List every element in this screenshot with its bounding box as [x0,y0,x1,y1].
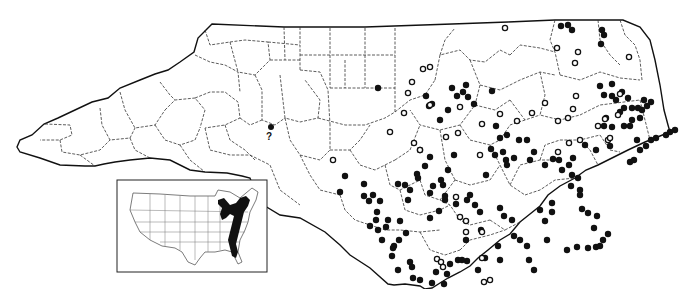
open-dot-marker [401,110,406,115]
open-dot-marker [330,157,335,162]
state-outline [17,20,670,289]
filled-dot-marker [629,117,635,123]
filled-dot-marker [607,143,613,149]
filled-dot-marker [601,123,607,129]
filled-dot-marker [495,243,501,249]
filled-dot-marker [549,209,555,215]
filled-dot-marker [601,92,607,98]
open-dot-marker [417,147,422,152]
filled-dot-marker [591,225,597,231]
filled-dot-marker [471,101,477,107]
open-dot-marker [409,79,414,84]
filled-dot-marker [631,157,637,163]
filled-dot-marker [483,172,489,178]
filled-dot-marker [488,146,494,152]
filled-dot-marker [373,217,379,223]
filled-dot-marker [559,167,565,173]
open-dot-marker [405,90,410,95]
filled-dot-marker [621,123,627,129]
filled-dot-marker [601,32,607,38]
filled-dot-marker [511,155,517,161]
filled-dot-marker [389,253,395,259]
filled-dot-marker [577,192,583,198]
filled-dot-marker [492,152,498,158]
open-dot-marker [575,49,580,54]
filled-dot-marker [472,202,478,208]
filled-dot-marker [493,123,499,129]
filled-dot-marker [497,257,503,263]
distribution-map: ? [0,0,679,289]
filled-dot-marker [454,93,460,99]
filled-dot-marker [511,233,517,239]
filled-dot-marker [549,200,555,206]
open-dot-marker [411,140,416,145]
filled-dot-marker [453,201,459,207]
filled-dot-marker [524,243,530,249]
filled-dot-marker [569,172,575,178]
filled-dot-marker [375,85,381,91]
filled-dot-marker [579,206,585,212]
open-dot-marker [555,118,560,123]
open-dot-marker [487,277,492,282]
filled-dot-marker [537,207,543,213]
filled-dot-marker [403,230,409,236]
us-inset-map [117,180,267,272]
filled-dot-marker [609,81,615,87]
open-dot-marker [477,152,482,157]
open-dot-marker [607,135,612,140]
filled-dot-marker [441,281,447,287]
open-dot-marker [602,116,607,121]
filled-dot-marker [542,162,548,168]
open-dot-marker [577,137,582,142]
open-dot-marker [453,194,458,199]
open-dot-marker [479,229,484,234]
filled-dot-marker [497,205,503,211]
filled-dot-marker [383,224,389,230]
filled-dot-marker [531,149,537,155]
filled-dot-marker [594,213,600,219]
open-dot-marker [502,25,507,30]
filled-dot-marker [437,117,443,123]
open-dot-marker [595,123,600,128]
filled-dot-marker [504,132,510,138]
open-dot-marker [555,149,560,154]
filled-dot-marker [459,257,465,263]
filled-dot-marker [463,82,469,88]
open-dot-marker [554,45,559,50]
filled-dot-marker [427,215,433,221]
filled-dot-marker [440,182,446,188]
filled-dot-marker [449,85,455,91]
filled-dot-marker [544,237,550,243]
filled-dot-marker [634,137,640,143]
filled-dot-marker [556,157,562,163]
open-dot-marker [497,111,502,116]
filled-dot-marker [558,23,564,29]
filled-dot-marker [609,124,615,130]
filled-dot-marker [489,88,495,94]
filled-dot-marker [397,218,403,224]
open-dot-marker [626,54,631,59]
filled-dot-marker [433,269,439,275]
filled-dot-marker [477,209,483,215]
filled-dot-marker [635,105,641,111]
filled-dot-marker [605,231,611,237]
filled-dot-marker [585,210,591,216]
open-dot-marker [479,255,484,260]
filled-dot-marker [565,22,571,28]
filled-dot-marker [509,217,515,223]
open-dot-marker [481,279,486,284]
filled-dot-marker [427,190,433,196]
filled-dot-marker [367,223,373,229]
filled-dot-marker [423,93,429,99]
filled-dot-marker [629,105,635,111]
filled-dot-marker [574,244,580,250]
open-dot-marker [463,229,468,234]
open-dot-marker [387,129,392,134]
filled-dot-marker [451,152,457,158]
filled-dot-marker [497,135,503,141]
filled-dot-marker [500,149,506,155]
filled-dot-marker [643,143,649,149]
filled-dot-marker [524,137,530,143]
filled-dot-marker [422,163,428,169]
filled-dot-marker [361,193,367,199]
